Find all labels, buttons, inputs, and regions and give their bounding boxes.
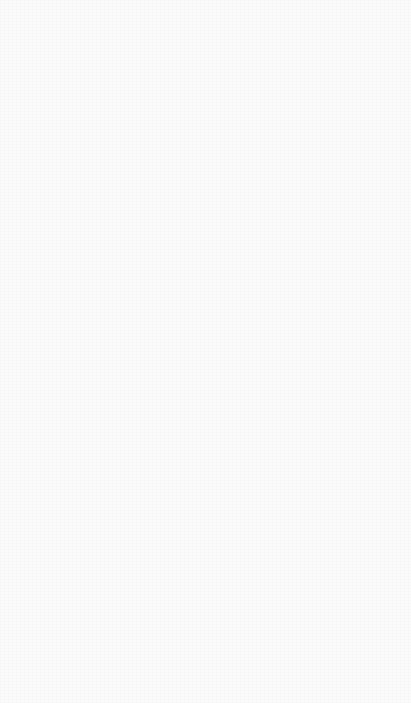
y-tick-label: 100.0: [49, 124, 78, 136]
diamond-marker-icon: [308, 174, 315, 181]
square-marker-icon: [228, 171, 235, 178]
square-marker-icon: [324, 184, 331, 191]
legend-label: SSP3: [207, 390, 236, 402]
legend-label: SSP2: [140, 390, 169, 402]
square-marker-icon: [276, 178, 283, 185]
legend-label: SSP5: [342, 390, 371, 402]
diamond-marker-icon: [51, 392, 59, 400]
legend-label: SSP4: [275, 390, 304, 402]
x-tick-label: 2040: [170, 340, 196, 352]
y-tick-label: 80.0: [56, 165, 78, 177]
square-marker-icon: [147, 633, 154, 640]
square-marker-icon: [356, 548, 363, 555]
x-tick-label: 2010: [73, 340, 99, 352]
population-chart-svg: 0.020.040.060.080.0100.0120.020102020203…: [0, 72, 411, 372]
x-tick-label: 2050: [202, 340, 228, 352]
x-tick-label: 2100: [363, 340, 389, 352]
y-tick-label: 14.0: [56, 657, 78, 669]
x-tick-label: 2060: [234, 340, 260, 352]
series-line-SSP1: [86, 523, 376, 683]
legend-item-SSP3: SSP3: [175, 388, 236, 404]
square-marker-icon: [324, 551, 331, 558]
legend-item-SSP5: SSP5: [310, 388, 371, 404]
series-group: [82, 103, 381, 258]
schooling-chart-svg: 14.014.515.015.516.016.5: [0, 470, 411, 695]
schooling-plot-area: 14.014.515.015.516.016.5 Mean years of s…: [0, 470, 411, 695]
x-tick-label: 2080: [299, 340, 325, 352]
square-marker-icon: [108, 388, 138, 404]
x-tick-label: 2070: [267, 340, 293, 352]
triangle-marker-icon: [372, 251, 380, 258]
square-marker-icon: [372, 546, 379, 553]
diamond-marker-icon: [340, 176, 347, 183]
square-marker-icon: [244, 173, 251, 180]
legend-item-SSP1: SSP1: [40, 388, 101, 404]
x-tick-label: 2090: [331, 340, 357, 352]
square-marker-icon: [211, 169, 218, 176]
x-tick-label: 2020: [105, 340, 131, 352]
square-marker-icon: [131, 647, 138, 654]
square-marker-icon: [179, 608, 186, 615]
y-tick-label: 40.0: [56, 245, 78, 257]
square-marker-icon: [211, 587, 218, 594]
square-marker-icon: [292, 558, 299, 565]
series-line-SSP5: [86, 523, 376, 682]
y-tick-label: 15.0: [56, 585, 78, 597]
square-marker-icon: [308, 554, 315, 561]
ssp-legend: SSP1SSP2SSP3SSP4SSP5: [0, 388, 411, 404]
series-group: [81, 518, 380, 695]
square-marker-icon: [340, 549, 347, 556]
schooling-y-axis-label: Mean years of schooling: [22, 570, 34, 695]
population-y-axis-label: Population (millions): [22, 268, 34, 372]
square-marker-icon: [276, 561, 283, 568]
diamond-marker-icon: [373, 179, 380, 186]
diamond-marker-icon: [292, 173, 299, 180]
square-marker-icon: [340, 187, 347, 194]
square-marker-icon: [119, 392, 127, 400]
legend-item-SSP2: SSP2: [108, 388, 169, 404]
population-chart-title: Population in millions: [0, 0, 411, 72]
population-plot-area: 0.020.040.060.080.0100.0120.020102020203…: [0, 72, 411, 372]
diamond-marker-icon: [40, 388, 70, 404]
square-marker-icon: [163, 621, 170, 628]
population-figure: Population in millions 0.020.040.060.080…: [0, 0, 411, 418]
square-marker-icon: [227, 578, 234, 585]
schooling-figure: Mean years of schooling, age 25+ 14.014.…: [0, 434, 411, 703]
square-marker-icon: [195, 597, 202, 604]
legend-label: SSP1: [72, 390, 101, 402]
schooling-chart-title: Mean years of schooling, age 25+: [0, 434, 411, 470]
y-tick-label: 16.5: [56, 478, 78, 490]
square-marker-icon: [356, 190, 363, 197]
square-marker-icon: [292, 180, 299, 187]
triangle-marker-icon: [175, 388, 205, 404]
diamond-marker-icon: [324, 175, 331, 182]
legend-item-SSP4: SSP4: [243, 388, 304, 404]
asterisk-marker-icon: [310, 388, 340, 404]
diamond-marker-icon: [356, 177, 363, 184]
square-marker-icon: [260, 566, 267, 573]
square-marker-icon: [260, 175, 267, 182]
y-tick-label: 120.0: [49, 84, 78, 96]
y-tick-label: 15.5: [56, 550, 78, 562]
y-tick-label: 0.0: [62, 326, 78, 338]
square-marker-icon: [373, 193, 380, 200]
plus-marker-icon: [243, 388, 273, 404]
y-tick-label: 14.5: [56, 621, 78, 633]
square-marker-icon: [308, 182, 315, 189]
y-tick-label: 16.0: [56, 514, 78, 526]
x-tick-label: 2030: [138, 340, 164, 352]
y-tick-label: 60.0: [56, 205, 78, 217]
square-marker-icon: [244, 572, 251, 579]
y-tick-label: 20.0: [56, 286, 78, 298]
